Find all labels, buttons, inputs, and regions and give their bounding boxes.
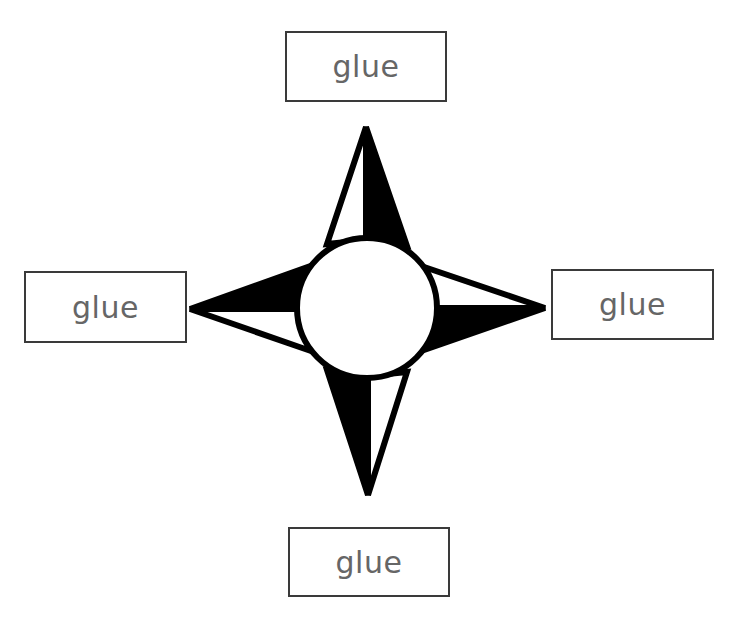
east-glue-box: glue	[551, 269, 714, 340]
south-glue-label: glue	[336, 545, 403, 580]
west-arm-top	[190, 267, 308, 309]
center-circle	[297, 238, 437, 378]
north-arm-right	[366, 127, 407, 246]
north-glue-box: glue	[285, 31, 447, 102]
east-arm-bottom	[427, 308, 545, 349]
south-glue-box: glue	[288, 527, 450, 597]
west-glue-label: glue	[72, 290, 139, 325]
north-arm-left	[327, 127, 366, 244]
east-glue-label: glue	[599, 287, 666, 322]
south-arm-left	[327, 370, 368, 495]
south-arm-right	[368, 372, 407, 495]
east-arm-top	[427, 268, 545, 308]
west-glue-box: glue	[24, 271, 187, 343]
north-glue-label: glue	[333, 49, 400, 84]
west-arm-bottom	[190, 309, 308, 350]
